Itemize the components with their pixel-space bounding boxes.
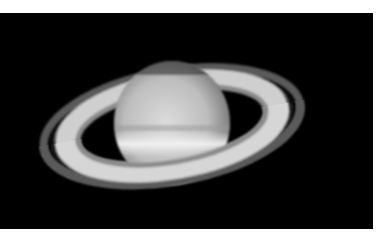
saturn-photo (0, 13, 373, 229)
saturn-illustration (0, 13, 373, 229)
